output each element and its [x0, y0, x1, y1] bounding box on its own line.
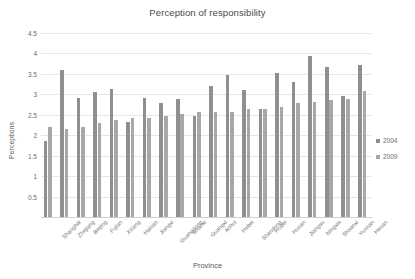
bar-2009[interactable] [296, 103, 300, 217]
y-axis-tick-label: 4 [33, 50, 37, 57]
chart-legend: 20042009 [376, 137, 414, 169]
bar-2004[interactable] [308, 56, 312, 217]
plot-area [41, 33, 372, 217]
bar-2009[interactable] [247, 109, 251, 217]
bar-group [306, 33, 323, 217]
bar-groups [41, 33, 372, 217]
bar-2009[interactable] [81, 127, 85, 217]
bar-2004[interactable] [44, 141, 48, 217]
x-axis-title: Province [0, 261, 415, 270]
y-axis-tick-label: 1.5 [28, 152, 37, 159]
bar-group [322, 33, 339, 217]
bar-2004[interactable] [341, 96, 345, 217]
bar-group [223, 33, 240, 217]
bar-2004[interactable] [358, 65, 362, 217]
y-axis-tick-label: 3.5 [28, 70, 37, 77]
x-axis-category-label: Jiangsu [308, 219, 326, 237]
y-axis-title: Perceptions [8, 109, 15, 173]
chart-title: Perception of responsibility [0, 7, 415, 18]
bar-2009[interactable] [197, 112, 201, 217]
y-axis-tick-labels: 0.511.522.533.544.5 [0, 33, 37, 217]
bar-group [173, 33, 190, 217]
chart-container: Perception of responsibility 0.511.522.5… [0, 0, 415, 279]
x-axis-category-label: Ningxia [324, 219, 341, 236]
bar-2004[interactable] [126, 122, 130, 217]
x-axis-category-label: Jiangxi [158, 219, 175, 236]
bar-2009[interactable] [329, 100, 333, 217]
bar-group [289, 33, 306, 217]
x-axis-category-label: Hainan [142, 219, 159, 236]
x-axis-category-label: Shaanxi [341, 219, 360, 238]
legend-label: 2004 [383, 137, 397, 144]
x-axis-category-labels: ShanghaiZhejiangBeijingFujianXizangHaina… [41, 219, 372, 261]
x-axis-category-label: Shanxi [191, 219, 207, 235]
legend-item[interactable]: 2009 [376, 153, 414, 160]
x-axis-category-label: Yunnan [357, 219, 375, 237]
bar-group [207, 33, 224, 217]
bar-2004[interactable] [292, 82, 296, 217]
bar-group [157, 33, 174, 217]
bar-2009[interactable] [164, 116, 168, 217]
bar-2004[interactable] [77, 98, 81, 217]
bar-group [355, 33, 372, 217]
bar-2004[interactable] [60, 70, 64, 217]
bar-group [58, 33, 75, 217]
bar-2009[interactable] [131, 118, 135, 217]
bar-group [140, 33, 157, 217]
bar-2009[interactable] [214, 112, 218, 217]
bar-group [74, 33, 91, 217]
bar-group [91, 33, 108, 217]
bar-2004[interactable] [110, 89, 114, 217]
bar-group [124, 33, 141, 217]
bar-2009[interactable] [98, 123, 102, 217]
bar-2004[interactable] [209, 86, 213, 217]
bar-2009[interactable] [147, 118, 151, 217]
x-axis-category-label: Fujian [108, 219, 123, 234]
bar-2009[interactable] [230, 112, 234, 217]
bar-group [41, 33, 58, 217]
bar-2009[interactable] [346, 99, 350, 217]
bar-2004[interactable] [159, 103, 163, 217]
bar-2004[interactable] [226, 75, 230, 217]
bar-2009[interactable] [263, 109, 267, 217]
bar-2009[interactable] [280, 107, 284, 217]
bar-2009[interactable] [313, 102, 317, 217]
legend-label: 2009 [383, 153, 397, 160]
bar-2004[interactable] [143, 98, 147, 217]
y-axis-tick-label: 0.5 [28, 193, 37, 200]
y-axis-tick-label: 2 [33, 132, 37, 139]
legend-swatch-icon [376, 139, 380, 143]
legend-swatch-icon [376, 155, 380, 159]
y-axis-tick-label: 2.5 [28, 111, 37, 118]
x-axis-category-label: Hebei [240, 219, 255, 234]
bar-2009[interactable] [114, 120, 118, 217]
bar-group [240, 33, 257, 217]
x-axis-category-label: Xizang [125, 219, 141, 235]
bar-group [190, 33, 207, 217]
bar-2009[interactable] [363, 91, 367, 217]
y-axis-tick-label: 3 [33, 91, 37, 98]
bar-2004[interactable] [93, 92, 97, 217]
bar-group [273, 33, 290, 217]
bar-2009[interactable] [65, 129, 69, 217]
x-axis-category-label: Hunan [290, 219, 306, 235]
x-axis-category-label: Henan [373, 219, 389, 235]
bar-2009[interactable] [48, 127, 52, 217]
bar-2004[interactable] [176, 99, 180, 217]
bar-2009[interactable] [180, 114, 184, 217]
bar-group [107, 33, 124, 217]
y-axis-tick-label: 1 [33, 173, 37, 180]
bar-group [339, 33, 356, 217]
bar-2004[interactable] [193, 116, 197, 217]
legend-item[interactable]: 2004 [376, 137, 414, 144]
bar-2004[interactable] [325, 67, 329, 217]
bar-2004[interactable] [259, 109, 263, 217]
y-axis-tick-label: 4.5 [28, 30, 37, 37]
bar-2004[interactable] [275, 73, 279, 217]
bar-2004[interactable] [242, 90, 246, 217]
bar-group [256, 33, 273, 217]
